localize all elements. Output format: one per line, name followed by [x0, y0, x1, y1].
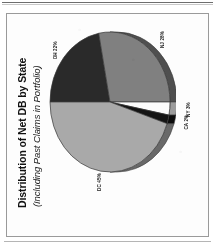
slice-label-ca: CA 2%	[183, 115, 188, 130]
pie-svg	[48, 24, 176, 180]
slice-label-oh: OH 22%	[53, 41, 58, 59]
page-bottom-rule	[4, 241, 211, 242]
chart-canvas: Distribution of Net DB by State (Includi…	[6, 0, 209, 216]
slice-label-nj: NJ 28%	[160, 31, 165, 48]
chart-title: Distribution of Net DB by State	[16, 0, 28, 208]
pie-chart	[48, 24, 176, 180]
slice-label-dc: DC 45%	[96, 173, 101, 191]
chart-subtitle: (Including Past Claims in Portfolio)	[31, 0, 42, 207]
pie-slices	[50, 32, 170, 172]
